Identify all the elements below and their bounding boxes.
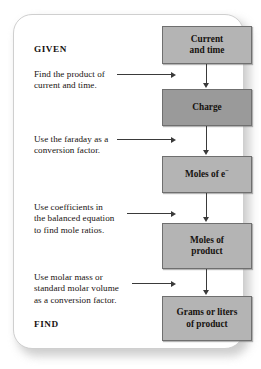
box-grams-or-liters-line-1: Grams or liters [177,307,238,317]
connector-arrowhead-2 [203,150,209,155]
pointer-arrowhead-4 [171,281,176,287]
step-3-line-2: the balanced equation [34,213,144,224]
box-current-and-time-line-1: Current [191,34,223,44]
pointer-line-4 [132,283,172,284]
find-label: FIND [34,319,59,329]
box-charge: Charge [162,89,252,126]
step-1-line-2: current and time. [34,80,144,91]
box-moles-of-product-line-1: Moles of [190,235,224,245]
box-grams-or-liters-of-product: Grams or liters of product [162,296,252,341]
connector-line-2 [206,126,207,151]
diagram-card: GIVEN Find the product of current and ti… [13,14,244,349]
step-3-line-3: to find mole ratios. [34,225,144,236]
electron-charge-superscript: − [225,167,229,174]
step-2-line-2: conversion factor. [34,145,144,156]
box-charge-line-1: Charge [192,102,221,112]
connector-line-1 [206,64,207,84]
box-moles-of-product-line-2: product [191,246,222,256]
connector-line-3 [206,193,207,218]
connector-arrowhead-4 [203,290,209,295]
step-4: Use molar mass or standard molar volume … [34,272,144,306]
box-moles-of-electrons: Moles of e− [162,156,252,193]
pointer-arrowhead-3 [171,211,176,217]
step-3: Use coefficients in the balanced equatio… [34,202,144,236]
box-grams-or-liters-line-2: of product [186,319,227,329]
box-current-and-time-line-2: and time [190,45,225,55]
pointer-arrowhead-2 [171,137,176,143]
step-4-line-1: Use molar mass or [34,272,144,283]
diagram-canvas: GIVEN Find the product of current and ti… [0,0,261,369]
pointer-arrowhead-1 [171,72,176,78]
pointer-line-2 [117,139,172,140]
given-label: GIVEN [34,44,67,54]
connector-arrowhead-3 [203,217,209,222]
box-moles-of-electrons-line-1: Moles of e [185,169,225,179]
connector-arrowhead-1 [203,83,209,88]
step-2: Use the faraday as a conversion factor. [34,134,144,157]
pointer-line-3 [127,213,172,214]
box-current-and-time: Current and time [162,26,252,64]
step-4-line-2: standard molar volume [34,283,144,294]
box-moles-of-product: Moles of product [162,223,252,269]
step-4-line-3: as a conversion factor. [34,295,144,306]
step-1: Find the product of current and time. [34,69,144,92]
connector-line-4 [206,269,207,291]
step-3-line-1: Use coefficients in [34,202,144,213]
pointer-line-1 [117,74,172,75]
